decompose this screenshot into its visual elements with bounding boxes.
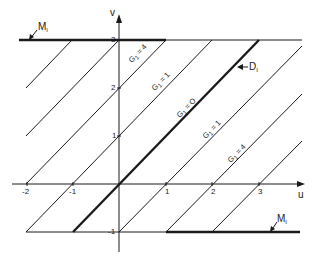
y-tick-label: 1 <box>112 132 116 140</box>
d1-line-g1-0 <box>73 40 259 232</box>
x-tick-label: 1 <box>165 188 169 196</box>
d1-arrow-icon <box>237 64 243 70</box>
u-axis-label: u <box>298 190 304 200</box>
d1-label: DI <box>249 62 258 73</box>
x-tick-label: -2 <box>22 188 29 196</box>
diag-line-g1-1-lower <box>119 46 302 232</box>
diag-line-g1-4-upper <box>26 40 166 184</box>
u-axis-arrow-icon <box>297 181 305 187</box>
diag-line-k-minus4 <box>26 40 72 88</box>
v-axis-label: v <box>110 8 115 18</box>
v-axis-arrow-icon <box>116 14 122 23</box>
diag-line-k-minus3 <box>26 40 119 136</box>
m1-bottom-label: MI <box>277 214 287 225</box>
y-tick-label: -1 <box>108 228 115 236</box>
x-tick-label: 2 <box>211 188 215 196</box>
x-tick-label: -1 <box>69 188 76 196</box>
diag-line-k-3 <box>212 141 302 232</box>
y-tick-label: 3 <box>111 36 115 44</box>
y-tick-label: 2 <box>111 84 115 92</box>
diagram-canvas <box>0 0 314 261</box>
m1-top-label: MI <box>38 22 48 33</box>
x-tick-label: 3 <box>258 188 262 196</box>
